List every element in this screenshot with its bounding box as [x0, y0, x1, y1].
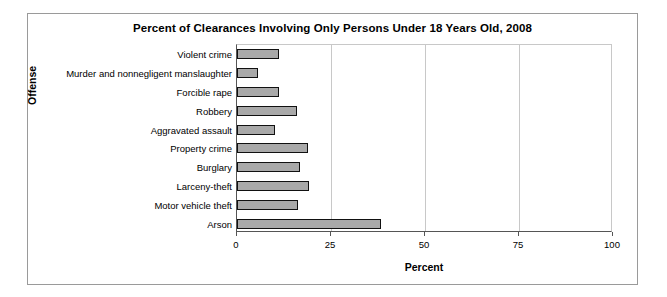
- bar-row: Motor vehicle theft: [237, 200, 611, 210]
- bar-row: Murder and nonnegligent manslaughter: [237, 68, 611, 78]
- bar: [237, 125, 275, 135]
- bar: [237, 68, 258, 78]
- bar-row: Burglary: [237, 162, 611, 172]
- bar: [237, 143, 308, 153]
- x-tick-mark: [424, 232, 425, 236]
- bar: [237, 162, 300, 172]
- bar: [237, 219, 381, 229]
- x-tick-label: 25: [325, 239, 336, 250]
- bar-series: Violent crimeMurder and nonnegligent man…: [237, 45, 611, 231]
- bar: [237, 106, 297, 116]
- category-label: Property crime: [170, 143, 232, 154]
- chart-figure: Percent of Clearances Involving Only Per…: [0, 0, 667, 297]
- category-label: Arson: [207, 218, 232, 229]
- category-label: Burglary: [197, 162, 232, 173]
- x-tick-mark: [518, 232, 519, 236]
- x-tick-label: 0: [233, 239, 238, 250]
- bar-row: Property crime: [237, 143, 611, 153]
- chart-title: Percent of Clearances Involving Only Per…: [27, 22, 638, 34]
- category-label: Forcible rape: [177, 87, 232, 98]
- x-tick-label: 100: [604, 239, 620, 250]
- bar-row: Larceny-theft: [237, 181, 611, 191]
- y-axis-title: Offense: [26, 66, 38, 105]
- category-label: Murder and nonnegligent manslaughter: [66, 68, 232, 79]
- x-tick-mark: [236, 232, 237, 236]
- category-label: Robbery: [196, 105, 232, 116]
- bar: [237, 181, 309, 191]
- x-tick-label: 75: [513, 239, 524, 250]
- bar-row: Robbery: [237, 106, 611, 116]
- bar-row: Arson: [237, 219, 611, 229]
- bar: [237, 200, 298, 210]
- category-label: Motor vehicle theft: [154, 199, 232, 210]
- x-tick-mark: [330, 232, 331, 236]
- bar-row: Aggravated assault: [237, 125, 611, 135]
- bar-row: Forcible rape: [237, 87, 611, 97]
- x-axis-title: Percent: [236, 261, 612, 273]
- plot-area: Violent crimeMurder and nonnegligent man…: [236, 44, 612, 232]
- category-label: Aggravated assault: [151, 124, 232, 135]
- bar-row: Violent crime: [237, 49, 611, 59]
- bar: [237, 87, 279, 97]
- x-tick-mark: [612, 232, 613, 236]
- category-label: Violent crime: [177, 49, 232, 60]
- x-tick-label: 50: [419, 239, 430, 250]
- category-label: Larceny-theft: [177, 181, 232, 192]
- bar: [237, 49, 279, 59]
